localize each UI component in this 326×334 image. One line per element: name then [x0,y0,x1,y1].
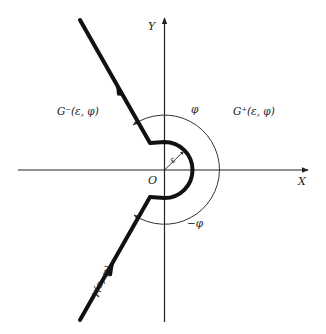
origin-label: O [148,174,157,187]
epsilon-label: ε [167,154,177,165]
angle-phi-label: φ [191,103,199,115]
x-axis-label: X [297,175,307,188]
y-axis-label: Y [148,20,157,33]
angle-minus-phi-label: −φ [187,217,204,229]
region-g-minus-label: G⁻(ε, φ) [57,105,99,117]
contour-gamma-label: γ(ε, φ) [87,263,114,299]
region-g-plus-label: G⁺(ε, φ) [233,105,275,117]
contour-diagram: Y X O G⁻(ε, φ) G⁺(ε, φ) φ −φ ε γ(ε, φ) [0,0,326,334]
